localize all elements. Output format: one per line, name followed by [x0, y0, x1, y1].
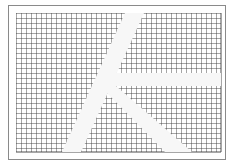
horizontal-band	[100, 73, 221, 86]
grid-figure	[0, 0, 233, 166]
